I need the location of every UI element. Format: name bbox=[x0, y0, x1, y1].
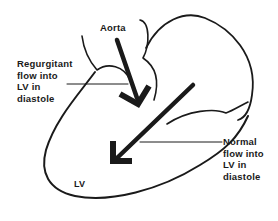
normal-line-2: flow into bbox=[223, 148, 264, 160]
normal-line-3: LV in bbox=[223, 159, 264, 171]
mitral-leaflet-curve bbox=[167, 102, 248, 124]
regurgitant-line-4: diastole bbox=[17, 93, 73, 105]
aorta-text: Aorta bbox=[100, 22, 126, 34]
regurgitant-flow-arrow bbox=[117, 40, 149, 104]
atrium-bulge bbox=[146, 15, 253, 120]
regurgitant-flow-label: Regurgitant flow into LV in diastole bbox=[17, 58, 73, 104]
lv-text: LV bbox=[74, 179, 85, 191]
lv-label: LV bbox=[74, 179, 85, 191]
normal-line-4: diastole bbox=[223, 171, 264, 183]
normal-line-1: Normal bbox=[223, 136, 264, 148]
regurgitant-line-3: LV in bbox=[17, 81, 73, 93]
regurgitant-line-1: Regurgitant bbox=[17, 58, 73, 70]
normal-flow-label: Normal flow into LV in diastole bbox=[223, 136, 264, 182]
heart-outline-drawing bbox=[0, 0, 278, 221]
heart-diagram: Aorta Regurgitant flow into LV in diasto… bbox=[0, 0, 278, 221]
aorta-label: Aorta bbox=[100, 22, 126, 34]
regurgitant-line-2: flow into bbox=[17, 70, 73, 82]
